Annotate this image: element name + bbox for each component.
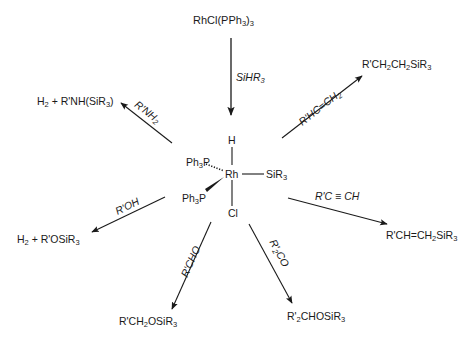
ligand-hydride: H bbox=[228, 134, 236, 146]
ligand-phosphine-lower: Ph3P bbox=[182, 192, 206, 204]
alcohol-product: H2 + R'OSiR3 bbox=[17, 233, 80, 245]
alkene-product: R'CH2CH2SiR3 bbox=[362, 58, 431, 70]
reaction-scheme: RhCl(PPh3)3 SiHR3 H Rh SiR3 Ph3P Ph3P Cl… bbox=[0, 0, 474, 342]
amine-product: H2 + R'NH(SiR3) bbox=[37, 95, 114, 107]
ligand-silyl: SiR3 bbox=[266, 168, 287, 180]
alkyne-reagent: R'C ≡ CH bbox=[315, 190, 359, 202]
aldehyde-product: R'CH2OSiR3 bbox=[119, 315, 177, 327]
ligand-chloride: Cl bbox=[228, 207, 238, 219]
alkyne-product: R'CH=CH2SiR3 bbox=[386, 229, 457, 241]
ketone-product: R'2CHOSiR3 bbox=[287, 310, 345, 322]
activation-reagent-label: SiHR3 bbox=[236, 71, 265, 83]
metal-center: Rh bbox=[225, 168, 238, 180]
ligand-phosphine-upper: Ph3P bbox=[186, 156, 210, 168]
rh-p-wedge-bond bbox=[205, 177, 224, 192]
precursor-label: RhCl(PPh3)3 bbox=[193, 14, 254, 26]
